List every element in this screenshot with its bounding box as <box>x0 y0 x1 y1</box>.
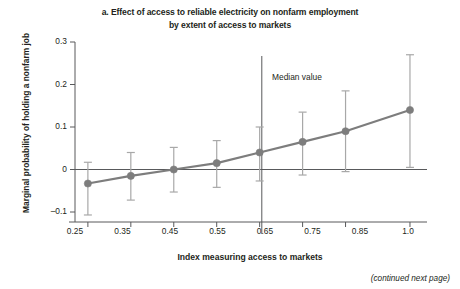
figure-panel-a: a. Effect of access to reliable electric… <box>0 0 460 289</box>
series-line <box>88 110 410 184</box>
data-point-marker <box>406 106 413 113</box>
data-point-marker <box>127 172 134 179</box>
data-point-marker <box>299 138 306 145</box>
data-point-marker <box>256 149 263 156</box>
continued-note: (continued next page) <box>371 274 450 283</box>
plot-area <box>0 0 460 289</box>
data-point-marker <box>84 180 91 187</box>
data-point-marker <box>342 128 349 135</box>
data-point-marker <box>213 160 220 167</box>
data-point-marker <box>170 166 177 173</box>
